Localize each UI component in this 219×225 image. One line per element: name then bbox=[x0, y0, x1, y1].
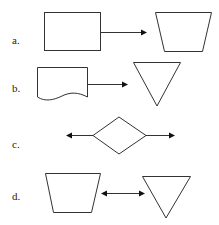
option-d: d. bbox=[12, 174, 191, 219]
arrowhead-right-icon bbox=[122, 82, 128, 88]
document-shape bbox=[38, 68, 88, 100]
process-rectangle bbox=[45, 13, 101, 51]
option-a: a. bbox=[12, 13, 212, 52]
merge-inverted-triangle bbox=[143, 177, 191, 219]
merge-inverted-triangle bbox=[134, 63, 181, 107]
manual-operation-trapezoid bbox=[46, 174, 101, 213]
arrowhead-right-icon bbox=[141, 30, 147, 36]
decision-diamond bbox=[93, 117, 146, 154]
option-c: c. bbox=[12, 117, 175, 154]
option-label-c: c. bbox=[12, 138, 20, 150]
option-label-a: a. bbox=[12, 34, 20, 46]
arrowhead-right-icon bbox=[139, 191, 145, 197]
manual-operation-trapezoid bbox=[156, 13, 212, 52]
arrowhead-right-icon bbox=[169, 133, 175, 139]
option-label-b: b. bbox=[12, 82, 21, 94]
arrowhead-left-icon bbox=[101, 191, 107, 197]
option-label-d: d. bbox=[12, 190, 21, 202]
option-b: b. bbox=[12, 63, 181, 107]
flowchart-options-diagram: a. b. c. d. bbox=[0, 0, 219, 225]
arrowhead-left-icon bbox=[66, 133, 72, 139]
